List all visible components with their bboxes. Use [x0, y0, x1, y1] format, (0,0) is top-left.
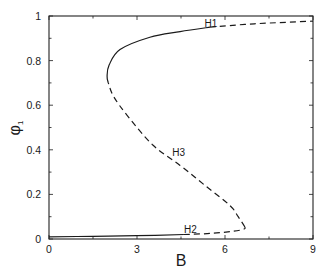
bifurcation-chart: 0369 00.20.40.60.81 B φ1 H1H2H3	[0, 0, 329, 278]
y-tick-label: 0	[35, 233, 41, 245]
annotation-h1: H1	[204, 18, 217, 29]
y-axis-label: φ1	[6, 120, 25, 135]
annotation-h2: H2	[184, 224, 197, 235]
curve-upper-stable-branch	[107, 27, 210, 83]
curves	[49, 21, 313, 237]
y-tick-label: 0.6	[26, 99, 41, 111]
annotation-h3: H3	[172, 147, 185, 158]
curve-upper-unstable-branch	[210, 21, 313, 27]
y-axis-label-text: φ1	[6, 120, 25, 135]
y-tick-label: 1	[35, 10, 41, 22]
x-tick-label: 9	[310, 243, 316, 255]
curve-lower-stable-branch	[49, 235, 184, 237]
x-tick-label: 0	[46, 243, 52, 255]
y-tick-labels: 00.20.40.60.81	[26, 10, 41, 245]
curve-annotations: H1H2H3	[172, 18, 217, 235]
plot-frame	[49, 16, 313, 239]
y-tick-label: 0.8	[26, 55, 41, 67]
x-axis-label: B	[176, 252, 187, 269]
axis-ticks	[49, 16, 313, 239]
x-tick-label: 3	[134, 243, 140, 255]
y-tick-label: 0.2	[26, 188, 41, 200]
x-tick-label: 6	[222, 243, 228, 255]
y-tick-label: 0.4	[26, 144, 41, 156]
